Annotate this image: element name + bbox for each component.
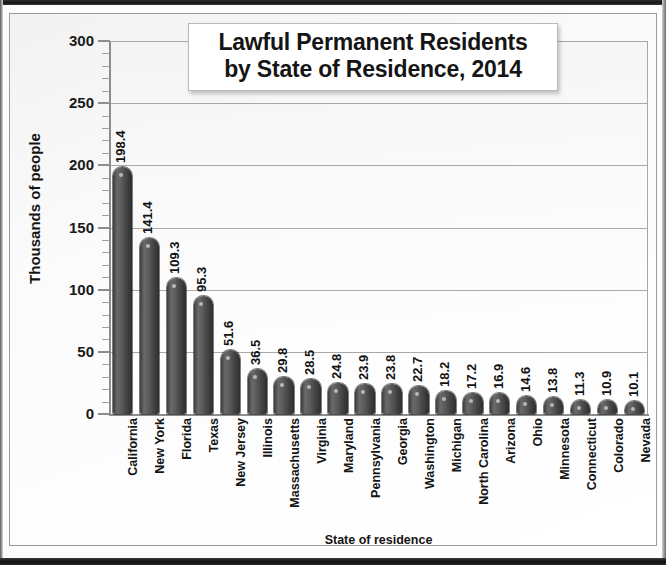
bar-value-label: 28.5 <box>303 349 316 374</box>
bar-highlight-icon <box>172 284 176 288</box>
chart-screenshot: 050100150200250300 198.4141.4109.395.351… <box>0 0 666 565</box>
bar-highlight-icon <box>253 375 257 379</box>
y-tick-label: 0 <box>48 406 94 421</box>
bar-highlight-icon <box>469 399 473 403</box>
bar[interactable] <box>517 396 536 414</box>
bar[interactable] <box>301 379 320 414</box>
window-left-edge <box>0 0 3 565</box>
y-tick-label: 250 <box>48 95 94 110</box>
x-axis-category-labels: CaliforniaNew YorkFloridaTexasNew Jersey… <box>109 418 648 530</box>
bar-value-label: 141.4 <box>141 202 154 235</box>
bar[interactable] <box>221 350 240 414</box>
x-category-label: Texas <box>208 418 221 453</box>
bar-highlight-icon <box>631 407 635 411</box>
bar-highlight-icon <box>388 390 392 394</box>
bar[interactable] <box>463 393 482 414</box>
y-tick-label: 100 <box>48 282 94 297</box>
x-axis-title: State of residence <box>109 533 648 547</box>
bar-slot: 11.3 <box>567 41 594 414</box>
x-category-label: Connecticut <box>586 418 599 490</box>
bar-value-label: 10.9 <box>600 371 613 396</box>
bar-slot: 17.2 <box>459 41 486 414</box>
bar-slot: 198.4 <box>109 41 136 414</box>
bar-slot: 28.5 <box>298 41 325 414</box>
bar[interactable] <box>113 167 132 414</box>
y-tick-label: 200 <box>48 157 94 172</box>
chart-title-line-2: by State of Residence, 2014 <box>201 56 545 83</box>
chart-title-box: Lawful Permanent Residents by State of R… <box>188 23 558 91</box>
x-category-label: Colorado <box>613 418 626 473</box>
bar[interactable] <box>409 386 428 414</box>
window-bottom-edge <box>0 558 666 565</box>
bar[interactable] <box>194 296 213 414</box>
bar-value-label: 10.1 <box>627 372 640 397</box>
bar-value-label: 23.9 <box>357 355 370 380</box>
x-category-label: Arizona <box>505 418 518 464</box>
bar-slot: 22.7 <box>405 41 432 414</box>
x-category-label: Washington <box>424 418 437 489</box>
bar-value-label: 51.6 <box>222 321 235 346</box>
bar-highlight-icon <box>199 302 203 306</box>
bar-value-label: 23.8 <box>384 355 397 380</box>
bar[interactable] <box>248 369 267 414</box>
bar-highlight-icon <box>119 173 123 177</box>
bar-slot: 51.6 <box>217 41 244 414</box>
bar[interactable] <box>328 383 347 414</box>
y-tick-label: 50 <box>48 344 94 359</box>
bar[interactable] <box>490 393 509 414</box>
bar[interactable] <box>167 278 186 414</box>
bar-highlight-icon <box>550 403 554 407</box>
window-right-edge <box>662 0 666 565</box>
x-category-label: Ohio <box>532 418 545 446</box>
bar[interactable] <box>598 400 617 414</box>
bar[interactable] <box>274 377 293 414</box>
bar[interactable] <box>355 384 374 414</box>
bar[interactable] <box>382 384 401 414</box>
bar-value-label: 29.8 <box>276 348 289 373</box>
bar-slot: 18.2 <box>432 41 459 414</box>
bar-value-label: 198.4 <box>114 131 127 164</box>
bar-highlight-icon <box>334 389 338 393</box>
figure-frame: 050100150200250300 198.4141.4109.395.351… <box>9 13 657 546</box>
bar-slot: 16.9 <box>486 41 513 414</box>
bar-slot: 10.1 <box>621 41 648 414</box>
bar-slot: 23.9 <box>352 41 379 414</box>
bar[interactable] <box>625 401 644 414</box>
bar-value-label: 14.6 <box>519 367 532 392</box>
y-tick-label: 150 <box>48 220 94 235</box>
bar-value-label: 13.8 <box>546 368 559 393</box>
x-category-label: New York <box>154 418 167 474</box>
bar-value-label: 17.2 <box>465 363 478 388</box>
bar[interactable] <box>571 400 590 414</box>
bar-value-label: 109.3 <box>168 242 181 275</box>
x-category-label: Maryland <box>343 418 356 473</box>
bar-highlight-icon <box>442 397 446 401</box>
bar[interactable] <box>436 391 455 414</box>
bar-highlight-icon <box>226 356 230 360</box>
bar-series: 198.4141.4109.395.351.636.529.828.524.82… <box>109 41 648 414</box>
x-category-label: Florida <box>181 418 194 460</box>
bar-highlight-icon <box>361 390 365 394</box>
y-axis-title: Thousands of people <box>26 99 43 319</box>
bar-value-label: 24.8 <box>330 354 343 379</box>
bar-highlight-icon <box>496 399 500 403</box>
bar-slot: 10.9 <box>594 41 621 414</box>
bar-value-label: 18.2 <box>438 362 451 387</box>
bar-slot: 36.5 <box>244 41 271 414</box>
y-tick-label: 300 <box>48 33 94 48</box>
bar[interactable] <box>544 397 563 414</box>
bar[interactable] <box>140 238 159 414</box>
bar-highlight-icon <box>577 406 581 410</box>
bar-value-label: 36.5 <box>249 339 262 364</box>
x-axis-spine <box>109 414 649 416</box>
bar-highlight-icon <box>415 392 419 396</box>
bar-slot: 109.3 <box>163 41 190 414</box>
x-category-label: Illinois <box>262 418 275 458</box>
bar-slot: 14.6 <box>513 41 540 414</box>
x-category-label: Michigan <box>451 418 464 472</box>
x-category-label: Virginia <box>316 418 329 464</box>
x-category-label: California <box>127 418 140 476</box>
x-category-label: Minnesota <box>559 418 572 480</box>
bar-slot: 23.8 <box>379 41 406 414</box>
bar-slot: 141.4 <box>136 41 163 414</box>
